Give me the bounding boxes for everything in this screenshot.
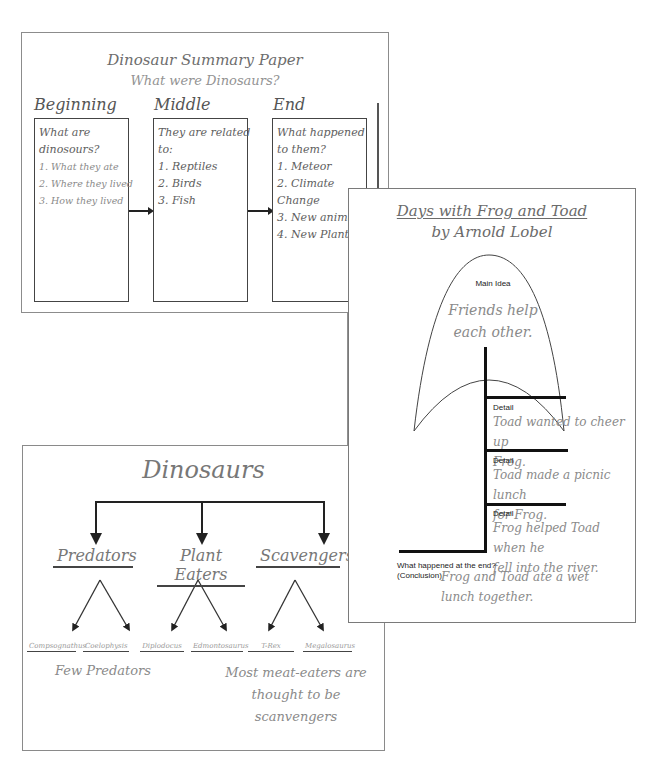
arrow-right-icon xyxy=(129,210,152,212)
box-line: 3. How they lived xyxy=(39,192,124,209)
summary-title: Dinosaur Summary Paper xyxy=(22,51,388,69)
conclusion-label: (Conclusion) xyxy=(397,571,442,580)
frog-and-toad-page: Days with Frog and Toad by Arnold Lobel … xyxy=(348,188,636,623)
box-line: 2. Where they lived xyxy=(39,175,124,192)
detail-label: Detail xyxy=(493,509,635,518)
example-diplodocus: Diplodocus xyxy=(140,642,184,652)
middle-box: They are related to: 1. Reptiles 2. Bird… xyxy=(153,118,248,302)
branch-line xyxy=(484,396,566,399)
conclusion-line: lunch together. xyxy=(441,587,589,607)
summary-paper-page: Dinosaur Summary Paper What were Dinosau… xyxy=(21,32,389,313)
category-predators: Predators xyxy=(53,546,133,568)
dinosaurs-classification-page: Dinosaurs Predators Plant Eaters Scaveng… xyxy=(22,445,385,751)
box-line: to them? xyxy=(277,141,362,158)
summary-subtitle: What were Dinosaurs? xyxy=(22,73,388,88)
column-heading-end: End xyxy=(273,95,305,114)
box-line: 3. Fish xyxy=(158,192,243,209)
main-idea-line: each other. xyxy=(349,321,637,343)
box-line: What happened xyxy=(277,124,362,141)
detail-line: Frog helped Toad when he xyxy=(493,518,635,558)
example-edmontosaurus: Edmontosaurus xyxy=(191,642,243,652)
main-idea-line: Friends help xyxy=(349,299,637,321)
box-line: 1. Reptiles xyxy=(158,158,243,175)
arrow-right-icon xyxy=(248,210,272,212)
box-line: 1. Meteor xyxy=(277,158,362,175)
example-megalosaurus: Megalosaurus xyxy=(303,642,352,652)
category-plant-eaters: Plant Eaters xyxy=(157,546,245,587)
example-coelophysis: Coelophysis xyxy=(83,642,129,652)
note-line: thought to be scanvengers xyxy=(211,684,381,728)
box-line: They are related xyxy=(158,124,243,141)
example-compsognathus: Compsognathus xyxy=(27,642,76,652)
beginning-box: What are dinosours? 1. What they ate 2. … xyxy=(34,118,129,302)
column-heading-middle: Middle xyxy=(154,95,211,114)
main-idea-label: Main Idea xyxy=(349,279,637,288)
detail-label: Detail xyxy=(493,456,635,465)
box-line: to: xyxy=(158,141,243,158)
box-line: What are xyxy=(39,124,124,141)
conclusion-line: Frog and Toad ate a wet xyxy=(441,567,589,587)
example-t-rex: T-Rex xyxy=(248,642,294,652)
note-few-predators: Few Predators xyxy=(43,660,163,682)
detail-line: Toad made a picnic lunch xyxy=(493,465,635,505)
category-scavengers: Scavengers xyxy=(256,546,340,568)
main-idea-text: Friends help each other. xyxy=(349,299,637,343)
conclusion-text: Frog and Toad ate a wet lunch together. xyxy=(441,567,589,607)
box-line: dinosours? xyxy=(39,141,124,158)
note-line: Most meat-eaters are xyxy=(211,662,381,684)
note-scavengers: Most meat-eaters are thought to be scanv… xyxy=(211,662,381,728)
base-line xyxy=(399,550,487,553)
column-heading-beginning: Beginning xyxy=(34,95,117,114)
box-line: 1. What they ate xyxy=(39,158,124,175)
box-line: 2. Birds xyxy=(158,175,243,192)
detail-label: Detail xyxy=(493,403,635,412)
detail-line: Toad wanted to cheer up xyxy=(493,412,635,452)
